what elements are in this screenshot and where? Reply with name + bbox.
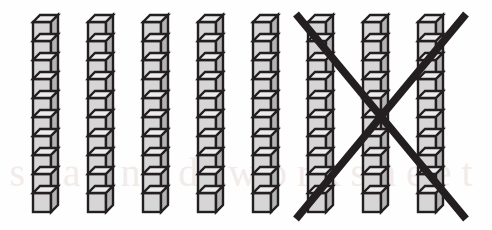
cross-out-layer [0, 0, 492, 230]
x-mark-icon [296, 14, 466, 219]
base-ten-rods-figure: scanned worksheet [0, 0, 492, 230]
